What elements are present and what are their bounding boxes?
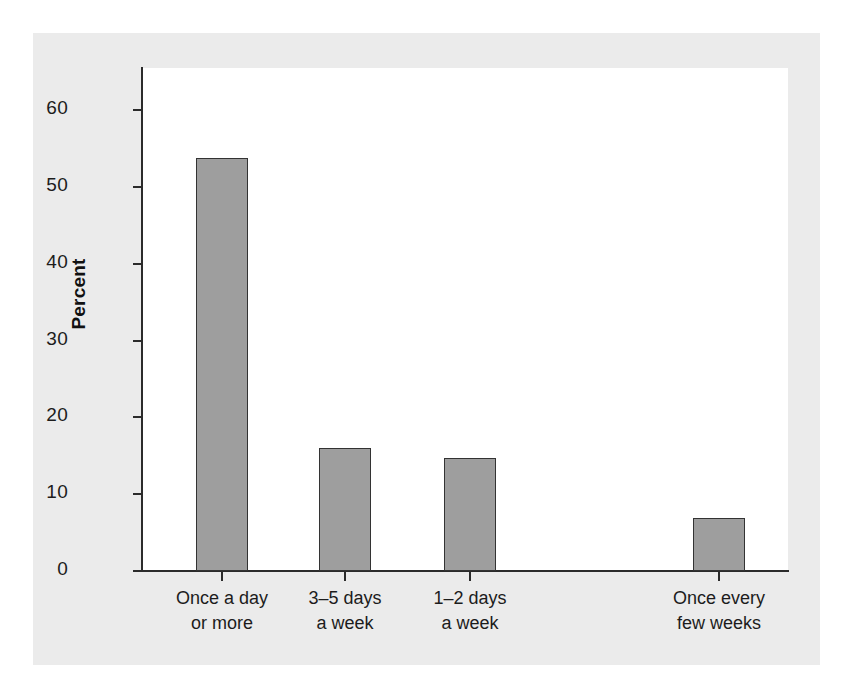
x-axis-label-line: 1–2 days (390, 586, 550, 611)
x-tick-0 (221, 572, 223, 581)
y-tick-50 (133, 186, 141, 188)
x-tick-2 (469, 572, 471, 581)
bar (693, 518, 745, 571)
y-tick-10 (133, 493, 141, 495)
bar (319, 448, 371, 571)
x-axis-label: 1–2 daysa week (390, 586, 550, 636)
y-tick-label-50: 50 (8, 174, 68, 196)
y-tick-40 (133, 263, 141, 265)
figure-panel: Percent 0102030405060 Once a dayor more3… (33, 33, 820, 665)
y-axis-line (141, 67, 143, 572)
y-tick-label-40: 40 (8, 251, 68, 273)
y-tick-0 (133, 570, 141, 572)
x-axis-label: Once everyfew weeks (639, 586, 799, 636)
y-axis-title: Percent (68, 234, 90, 354)
y-tick-20 (133, 416, 141, 418)
x-axis-label-line: a week (390, 611, 550, 636)
y-tick-label-30: 30 (8, 328, 68, 350)
x-axis-label-line: Once every (639, 586, 799, 611)
y-tick-30 (133, 340, 141, 342)
x-tick-3 (718, 572, 720, 581)
y-tick-60 (133, 109, 141, 111)
x-axis-label-line: few weeks (639, 611, 799, 636)
y-tick-label-20: 20 (8, 404, 68, 426)
y-tick-label-60: 60 (8, 97, 68, 119)
y-tick-label-10: 10 (8, 481, 68, 503)
bar (196, 158, 248, 571)
x-tick-1 (344, 572, 346, 581)
y-tick-label-0: 0 (8, 558, 68, 580)
bar (444, 458, 496, 571)
